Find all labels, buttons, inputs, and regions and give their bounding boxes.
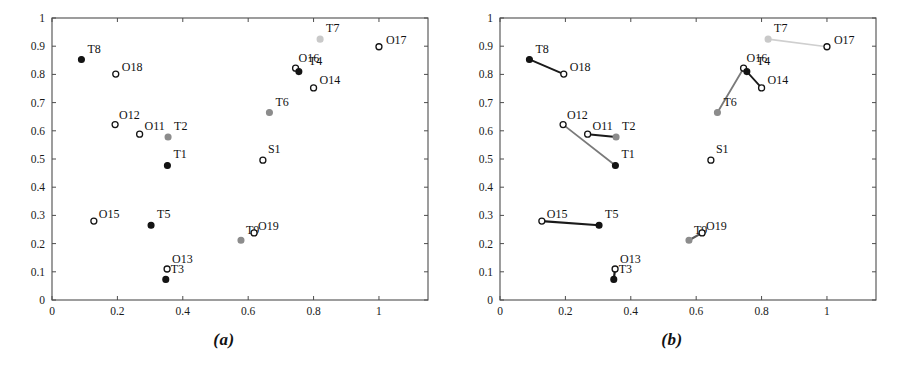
data-point-T8[interactable]: T8	[527, 42, 549, 62]
point-label-O15: O15	[547, 207, 568, 221]
x-axis-tick-label: 0.2	[110, 305, 125, 317]
point-label-T5: T5	[157, 207, 170, 221]
x-axis-tick-label: 0.8	[754, 305, 769, 317]
y-axis-tick-label: 0.7	[31, 97, 46, 109]
y-axis-tick-label: 0.3	[31, 209, 46, 221]
scatter-plot-a: 00.20.40.60.8100.10.20.30.40.50.60.70.80…	[0, 0, 448, 330]
point-label-O17: O17	[386, 33, 407, 47]
point-marker-T7	[765, 36, 771, 42]
data-point-T1[interactable]: T1	[165, 147, 187, 168]
point-label-O11: O11	[145, 119, 165, 133]
x-axis-tick-label: 1	[376, 305, 382, 317]
x-axis-tick-label: 0.4	[176, 305, 191, 317]
point-marker-O17	[376, 44, 382, 50]
point-label-O12: O12	[119, 108, 140, 122]
panel-a: 00.20.40.60.8100.10.20.30.40.50.60.70.80…	[0, 0, 448, 375]
data-point-S1[interactable]: S1	[708, 142, 729, 163]
data-point-O17[interactable]: O17	[824, 33, 855, 50]
point-label-T1: T1	[621, 147, 634, 161]
point-marker-T1	[165, 163, 171, 169]
y-axis-tick-label: 0.9	[479, 40, 494, 52]
panel-b: 00.20.40.60.8100.10.20.30.40.50.60.70.80…	[448, 0, 896, 375]
y-axis-tick-label: 0.1	[479, 266, 494, 278]
point-marker-O15	[91, 218, 97, 224]
point-label-O15: O15	[99, 207, 120, 221]
data-point-O18[interactable]: O18	[561, 60, 591, 77]
data-point-T7[interactable]: T7	[765, 21, 787, 42]
data-point-O12[interactable]: O12	[560, 108, 588, 128]
x-axis-tick-label: 0.2	[558, 305, 573, 317]
point-marker-O18	[561, 71, 567, 77]
point-label-O19: O19	[706, 219, 727, 233]
x-axis-tick-label: 0	[49, 305, 55, 317]
y-axis-tick-label: 0.2	[31, 238, 46, 250]
data-point-T2[interactable]: T2	[613, 119, 635, 140]
panel-a-caption: (a)	[0, 330, 448, 350]
point-marker-T5	[596, 222, 602, 228]
point-label-T6: T6	[275, 95, 288, 109]
data-point-O18[interactable]: O18	[113, 60, 143, 77]
point-label-O18: O18	[122, 60, 143, 74]
point-label-T5: T5	[605, 207, 618, 221]
point-marker-T2	[613, 134, 619, 140]
data-point-T5[interactable]: T5	[148, 207, 170, 228]
data-point-O14[interactable]: O14	[759, 73, 789, 91]
point-marker-T6	[267, 110, 273, 116]
point-label-T2: T2	[174, 119, 187, 133]
point-marker-T4	[744, 69, 750, 75]
data-point-O12[interactable]: O12	[112, 108, 140, 128]
y-axis-tick-label: 0	[487, 294, 493, 306]
point-marker-T9	[686, 237, 692, 243]
point-marker-O18	[113, 71, 119, 77]
point-marker-T3	[611, 277, 617, 283]
point-label-O14: O14	[768, 73, 789, 87]
point-marker-T7	[317, 36, 323, 42]
y-axis-tick-label: 0.6	[31, 125, 46, 137]
data-point-O14[interactable]: O14	[311, 73, 341, 91]
point-marker-O19	[699, 230, 705, 236]
point-marker-O14	[311, 85, 317, 91]
y-axis-tick-label: 0.6	[479, 125, 494, 137]
y-axis-tick-label: 1	[487, 12, 493, 24]
data-point-T6[interactable]: T6	[715, 95, 737, 115]
data-point-S1[interactable]: S1	[260, 142, 281, 163]
data-point-T6[interactable]: T6	[267, 95, 289, 115]
point-marker-T2	[165, 134, 171, 140]
x-axis-tick-label: 0.8	[306, 305, 321, 317]
point-label-O19: O19	[258, 219, 279, 233]
point-marker-T5	[148, 222, 154, 228]
y-axis-tick-label: 0.2	[479, 238, 494, 250]
y-axis-tick-label: 0.3	[479, 209, 494, 221]
point-label-T3: T3	[171, 262, 184, 276]
point-label-T6: T6	[723, 95, 736, 109]
scatter-plot-b: 00.20.40.60.8100.10.20.30.40.50.60.70.80…	[448, 0, 896, 330]
y-axis-tick-label: 0.8	[31, 68, 46, 80]
data-point-T2[interactable]: T2	[165, 119, 187, 140]
point-label-T7: T7	[326, 21, 339, 35]
y-axis-tick-label: 0.4	[31, 181, 46, 193]
data-point-O15[interactable]: O15	[91, 207, 120, 224]
data-point-T1[interactable]: T1	[613, 147, 635, 168]
match-link-O15-T5	[542, 221, 599, 225]
data-point-O11[interactable]: O11	[137, 119, 165, 137]
point-marker-O13	[164, 266, 170, 272]
point-marker-T1	[613, 163, 619, 169]
axes-frame	[52, 18, 428, 300]
figure-container: 00.20.40.60.8100.10.20.30.40.50.60.70.80…	[0, 0, 897, 375]
data-point-T5[interactable]: T5	[596, 207, 618, 228]
data-point-O17[interactable]: O17	[376, 33, 407, 50]
point-marker-O17	[824, 44, 830, 50]
y-axis-tick-label: 0.4	[479, 181, 494, 193]
point-marker-S1	[260, 157, 266, 163]
point-marker-O11	[585, 131, 591, 137]
data-point-T8[interactable]: T8	[79, 42, 101, 62]
point-label-O12: O12	[567, 108, 588, 122]
x-axis-tick-label: 0.6	[241, 305, 256, 317]
x-axis-tick-label: 0.6	[689, 305, 704, 317]
point-marker-O15	[539, 218, 545, 224]
point-marker-T4	[296, 69, 302, 75]
point-marker-T3	[163, 277, 169, 283]
match-link-T8-O18	[529, 59, 563, 74]
point-label-O18: O18	[570, 60, 591, 74]
data-point-T7[interactable]: T7	[317, 21, 339, 42]
